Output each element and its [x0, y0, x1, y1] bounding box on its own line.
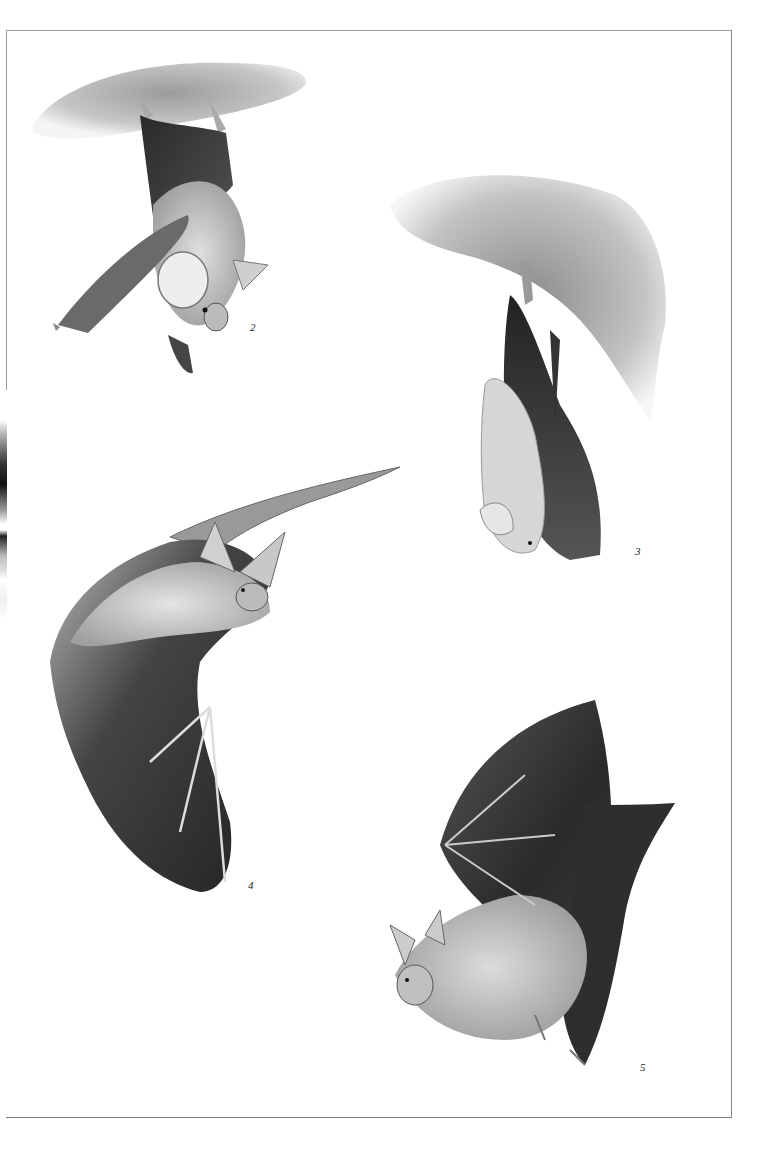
figure-3-hanging-bat: 3 — [385, 165, 675, 565]
figure-number-3: 3 — [635, 545, 641, 557]
bat-illustration-icon — [40, 462, 405, 902]
plate-left-border — [6, 30, 7, 390]
figure-number-2: 2 — [250, 321, 256, 333]
figure-4-flying-bat: 4 — [40, 462, 405, 902]
figure-2-hanging-bat: 2 — [28, 55, 313, 385]
figure-number-4: 4 — [248, 879, 254, 891]
figure-number-5: 5 — [640, 1061, 646, 1073]
bat-illustration-icon — [385, 695, 680, 1080]
bat-illustration-icon — [28, 55, 313, 385]
bat-illustration-icon — [385, 165, 675, 565]
scan-edge-artifact — [0, 420, 7, 620]
figure-5-flying-bat: 5 — [385, 695, 680, 1080]
